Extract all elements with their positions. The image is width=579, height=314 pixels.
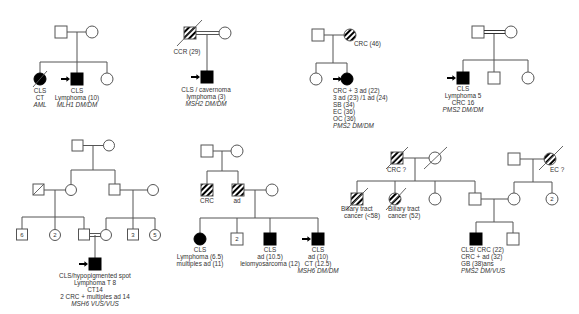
- label: CT14: [87, 286, 103, 293]
- male-unaffected: [312, 29, 324, 41]
- label: multiples ad (11): [177, 260, 224, 268]
- proband-arrow-icon: [302, 236, 311, 241]
- female-unaffected: [101, 73, 113, 85]
- label: CRC (46): [354, 40, 381, 48]
- label: CLS: [457, 85, 469, 92]
- genotype-label: MSH2 DM/DM: [185, 100, 227, 107]
- female-hatched: [389, 193, 401, 205]
- label: CRC ?: [387, 166, 407, 173]
- male-father: [469, 193, 481, 205]
- genotype-label: MSH6 VUS/VUS: [71, 300, 119, 307]
- label: CLS: [312, 246, 324, 253]
- male-affected: [264, 233, 276, 245]
- proband-male-affected: [89, 258, 101, 270]
- label: AML: [32, 101, 47, 108]
- pedigree-family-6: CRC ad 2 CLS Lymphoma (6.5) multiples ad…: [177, 145, 340, 274]
- female-unaffected: [429, 193, 441, 205]
- female-unaffected: [522, 72, 534, 84]
- male-unaffected: [201, 145, 213, 157]
- label: CCR (29): [174, 48, 201, 56]
- female-unaffected: [219, 27, 231, 39]
- female-unaffected: [86, 26, 98, 38]
- label: CLS: [34, 87, 46, 94]
- genotype-label: PMS2 DM/DM: [443, 106, 485, 113]
- proband-male-affected: [312, 233, 324, 245]
- male-father: [79, 229, 90, 240]
- label: CLS: [71, 87, 83, 94]
- pedigree-family-3: CRC (46) CRC + 3 ad (22) 3 ad (23) /1 ad…: [310, 29, 388, 129]
- genotype-label: PMS2 DM/DM: [333, 122, 375, 129]
- proband-male-affected: [201, 71, 213, 83]
- proband-arrow-icon: [79, 261, 88, 266]
- male-unaffected: [472, 26, 484, 38]
- proband-arrow-icon: [191, 74, 200, 79]
- genotype-label: MSH6 DM/DM: [297, 267, 339, 274]
- proband-arrow-icon: [333, 76, 342, 81]
- female-unaffected: [66, 185, 77, 196]
- label: leiomyosarcoma (12): [240, 260, 300, 268]
- pedigree-family-1: CLS CT AML CLS Lymphoma (10) MLH1 DM/DM: [32, 26, 113, 108]
- female-mother: [508, 193, 520, 205]
- proband-male-affected: [71, 73, 83, 85]
- female-unaffected: [104, 140, 115, 151]
- label: EC ?: [550, 166, 565, 173]
- pedigree-figure: CLS CT AML CLS Lymphoma (10) MLH1 DM/DM …: [0, 0, 579, 314]
- proband-arrow-icon: [447, 75, 456, 80]
- female-unaffected: [148, 185, 159, 196]
- male-hatched: [201, 184, 213, 196]
- female-unaffected: [310, 73, 322, 85]
- proband-male-affected: [470, 233, 482, 245]
- label: CRC: [200, 197, 214, 204]
- male-unaffected: [507, 233, 519, 245]
- label: CT: [36, 94, 45, 101]
- male-unaffected: [508, 153, 520, 165]
- female-mother: [266, 184, 278, 196]
- label: cancer (52): [388, 212, 420, 220]
- male-unaffected: [109, 184, 120, 195]
- female-affected: [194, 233, 206, 245]
- label: CLS: [264, 246, 276, 253]
- pedigree-family-7: CRC ? Biliary tract cancer (<58) Biliary…: [341, 146, 565, 274]
- label: cancer (<58): [344, 212, 380, 220]
- pedigree-family-4: CLS Lymphoma 5 CRC 16 PMS2 DM/DM: [443, 26, 534, 113]
- male-unaffected: [488, 72, 500, 84]
- female-unaffected: [505, 26, 517, 38]
- label: ad: [233, 197, 241, 204]
- pedigree-family-2: CCR (29) CLS / cavernoma lymphoma (3) MS…: [174, 20, 232, 107]
- male-unaffected: [55, 26, 67, 38]
- male-unaffected: [72, 140, 83, 151]
- male-hatched-father: [232, 184, 244, 196]
- label: CLS / cavernoma: [181, 86, 231, 93]
- proband-female-affected: [341, 73, 353, 85]
- label: CRC 16: [452, 99, 475, 106]
- deceased-slash: [177, 20, 202, 46]
- pedigree-family-5: 6 2 3 5 CLS/hypopigmented spot Lymphoma …: [17, 140, 161, 307]
- proband-male-affected: [457, 72, 469, 84]
- female-unaffected: [231, 145, 243, 157]
- proband-arrow-icon: [61, 76, 70, 81]
- female-mother: [101, 230, 112, 241]
- label: CLS: [194, 246, 206, 253]
- genotype-label: MLH1 DM/DM: [57, 101, 98, 108]
- genotype-label: PMS2 DM/VUS: [461, 267, 506, 274]
